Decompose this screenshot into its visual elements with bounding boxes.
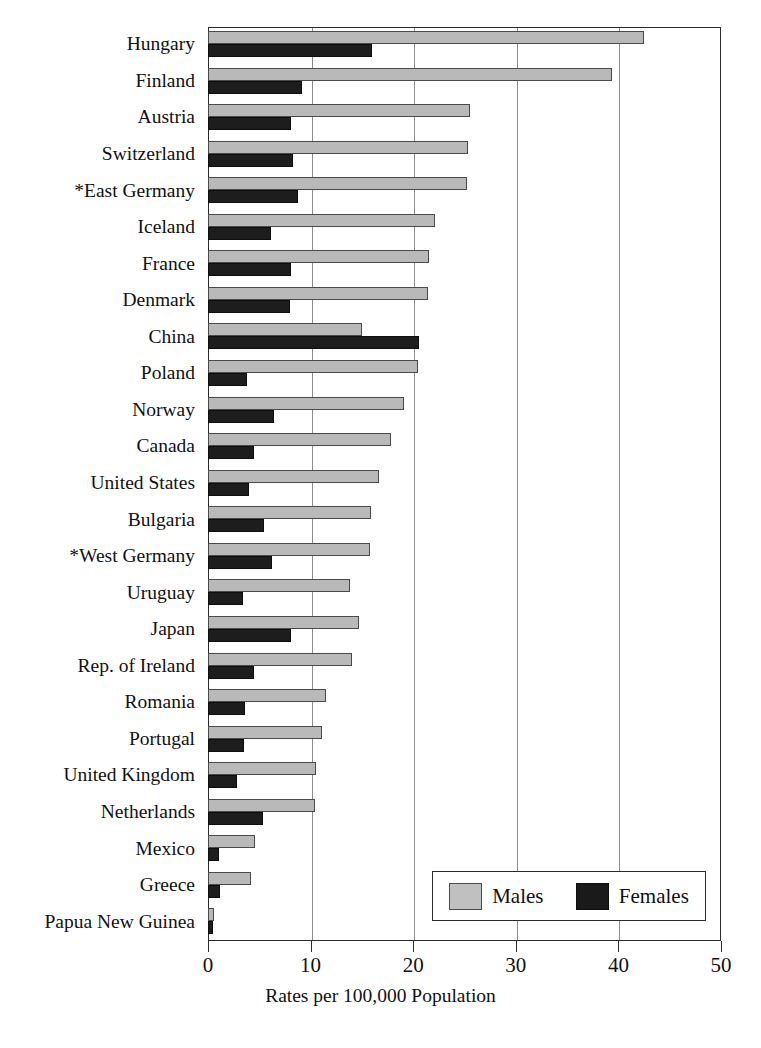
males-swatch-icon [449, 883, 482, 910]
bar-males [208, 141, 468, 154]
females-swatch-icon [576, 883, 609, 910]
bar-females [208, 848, 219, 861]
bar-males [208, 433, 391, 446]
bar-group [208, 649, 721, 686]
bar-males [208, 653, 352, 666]
category-label: France [142, 253, 195, 275]
bar-group [208, 319, 721, 356]
bar-group [208, 64, 721, 101]
category-label: Hungary [127, 33, 195, 55]
bar-females [208, 263, 291, 276]
x-tick-30 [516, 941, 517, 952]
category-label: *East Germany [74, 180, 195, 202]
x-tick-0 [208, 941, 209, 952]
category-label: Papua New Guinea [44, 911, 195, 933]
bar-males [208, 287, 428, 300]
bar-females [208, 812, 263, 825]
bar-group [208, 831, 721, 868]
category-label: Canada [137, 435, 195, 457]
bar-females [208, 775, 237, 788]
bar-group [208, 137, 721, 174]
bars-layer [208, 27, 721, 941]
bar-females [208, 666, 254, 679]
category-label: Portugal [129, 728, 195, 750]
bar-females [208, 483, 249, 496]
bar-group [208, 685, 721, 722]
x-tick-10 [311, 941, 312, 952]
bar-males [208, 470, 379, 483]
bar-females [208, 556, 272, 569]
category-label: Japan [151, 618, 195, 640]
bar-females [208, 519, 264, 532]
x-tick-label-20: 20 [403, 953, 424, 977]
legend-item-males: Males [449, 883, 543, 910]
bar-group [208, 283, 721, 320]
bar-group [208, 466, 721, 503]
x-tick-label-0: 0 [203, 953, 214, 977]
bar-females [208, 410, 274, 423]
category-label: Switzerland [102, 143, 195, 165]
category-label: Denmark [122, 289, 195, 311]
x-axis-title: Rates per 100,000 Population [0, 985, 761, 1007]
bar-group [208, 539, 721, 576]
category-label: Norway [132, 399, 195, 421]
bar-group [208, 100, 721, 137]
x-tick-label-50: 50 [711, 953, 732, 977]
x-tick-50 [721, 941, 722, 952]
bar-females [208, 154, 293, 167]
bar-group [208, 393, 721, 430]
bar-females [208, 81, 302, 94]
bar-females [208, 336, 419, 349]
bar-females [208, 300, 290, 313]
bar-females [208, 739, 244, 752]
chart-legend: Males Females [432, 871, 706, 921]
bar-group [208, 575, 721, 612]
bar-males [208, 250, 429, 263]
x-tick-label-40: 40 [608, 953, 629, 977]
bar-males [208, 908, 214, 921]
category-label: United Kingdom [63, 764, 195, 786]
bar-group [208, 429, 721, 466]
bar-males [208, 323, 362, 336]
category-label: Romania [125, 691, 195, 713]
bar-males [208, 104, 470, 117]
bar-females [208, 921, 213, 934]
bar-males [208, 31, 644, 44]
bar-males [208, 543, 370, 556]
category-labels: HungaryFinlandAustriaSwitzerland*East Ge… [0, 27, 203, 941]
bar-group [208, 27, 721, 64]
category-label: Rep. of Ireland [78, 655, 196, 677]
category-label: Bulgaria [128, 509, 195, 531]
legend-label-females: Females [619, 885, 689, 907]
category-label: Greece [140, 874, 195, 896]
bar-group [208, 356, 721, 393]
bar-group [208, 722, 721, 759]
category-label: Poland [141, 362, 195, 384]
x-tick-label-10: 10 [300, 953, 321, 977]
bar-males [208, 872, 251, 885]
bar-females [208, 227, 271, 240]
bar-females [208, 702, 245, 715]
category-label: *West Germany [69, 545, 195, 567]
bar-males [208, 762, 316, 775]
category-label: China [148, 326, 195, 348]
legend-item-females: Females [576, 883, 689, 910]
bar-males [208, 689, 326, 702]
x-axis-ticks [208, 941, 721, 953]
bar-chart: HungaryFinlandAustriaSwitzerland*East Ge… [0, 0, 761, 1048]
bar-males [208, 579, 350, 592]
bar-females [208, 190, 298, 203]
x-tick-label-30: 30 [505, 953, 526, 977]
bar-males [208, 616, 359, 629]
bar-males [208, 360, 418, 373]
bar-group [208, 612, 721, 649]
bar-females [208, 446, 254, 459]
bar-females [208, 117, 291, 130]
category-label: United States [90, 472, 195, 494]
bar-group [208, 246, 721, 283]
bar-females [208, 592, 243, 605]
category-label: Iceland [138, 216, 195, 238]
bar-males [208, 397, 404, 410]
x-tick-20 [413, 941, 414, 952]
bar-females [208, 885, 220, 898]
